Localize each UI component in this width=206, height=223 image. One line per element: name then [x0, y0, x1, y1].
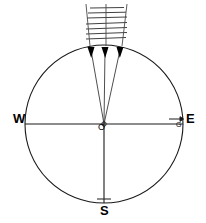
arrowhead-center [102, 47, 109, 58]
wavefront-line [88, 12, 126, 13]
label-west: W [13, 112, 25, 125]
ray-left [91, 50, 104, 124]
figure-canvas [0, 0, 206, 223]
ray-right [104, 50, 120, 124]
ray-center [104, 50, 105, 124]
label-south: S [100, 204, 109, 217]
wavefront-line [86, 23, 127, 25]
ray-guide-group [86, 4, 127, 46]
arrowhead-group [88, 47, 124, 58]
label-center-origin: O [98, 123, 105, 132]
guide-left-line [86, 4, 90, 46]
wavefront-line [86, 28, 127, 30]
guide-right-line [122, 4, 127, 46]
wave-refraction-figure: W E S O G [0, 0, 206, 223]
ray-group [91, 50, 120, 124]
wavefront-line [86, 33, 127, 35]
arrowhead-left [88, 47, 95, 58]
label-east: E [186, 112, 195, 125]
wavefront-line [87, 17, 127, 18]
arrowhead-right [117, 47, 124, 58]
wavefront-line [90, 8, 124, 9]
wavefront-group [86, 8, 127, 40]
label-gradient: G [176, 121, 181, 128]
